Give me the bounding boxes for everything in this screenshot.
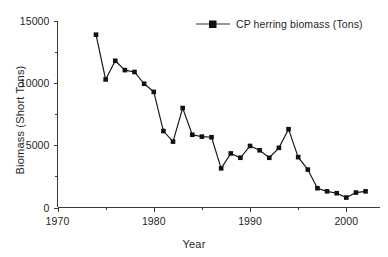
data-point-marker <box>277 146 282 151</box>
y-axis-title: Biomass (Short Tons) <box>14 34 26 206</box>
data-point-marker <box>219 166 224 171</box>
y-tick-label: 15000 <box>0 16 50 27</box>
data-point-marker <box>113 58 118 63</box>
series-markers-cp-herring-biomass <box>94 32 368 199</box>
data-point-marker <box>296 155 301 160</box>
axes-group <box>58 21 381 208</box>
data-point-marker <box>190 132 195 137</box>
data-point-marker <box>132 70 137 75</box>
x-tick-label: 1990 <box>238 216 262 227</box>
x-tick-label: 1970 <box>46 216 70 227</box>
data-point-marker <box>142 81 147 86</box>
x-ticks-group <box>59 208 347 212</box>
data-point-marker <box>325 189 330 194</box>
data-point-marker <box>363 189 368 194</box>
data-point-marker <box>94 32 99 37</box>
data-point-marker <box>257 148 262 153</box>
data-point-marker <box>228 151 233 156</box>
chart-legend: CP herring biomass (Tons) <box>196 18 363 30</box>
data-point-marker <box>248 144 253 149</box>
data-point-marker <box>123 68 128 73</box>
x-axis-title: Year <box>0 238 388 250</box>
data-point-marker <box>180 106 185 111</box>
data-point-marker <box>354 190 359 195</box>
data-series-group <box>94 32 368 199</box>
legend-entry-label: CP herring biomass (Tons) <box>236 18 363 30</box>
data-point-marker <box>103 77 108 82</box>
data-point-marker <box>161 129 166 134</box>
y-ticks-group <box>54 22 58 209</box>
chart-figure: 050001000015000 1970198019902000 Biomass… <box>0 0 388 257</box>
data-point-marker <box>209 135 214 140</box>
data-point-marker <box>315 186 320 191</box>
data-point-marker <box>171 139 176 144</box>
series-line-cp-herring-biomass <box>96 35 366 198</box>
data-point-marker <box>334 191 339 196</box>
legend-marker-icon <box>196 18 230 30</box>
x-tick-label: 2000 <box>334 216 358 227</box>
x-tick-label: 1980 <box>142 216 166 227</box>
data-point-marker <box>286 127 291 132</box>
data-point-marker <box>267 155 272 160</box>
data-point-marker <box>238 155 243 160</box>
data-point-marker <box>200 134 205 139</box>
data-point-marker <box>306 167 311 172</box>
data-point-marker <box>151 90 156 95</box>
data-point-marker <box>344 195 349 200</box>
